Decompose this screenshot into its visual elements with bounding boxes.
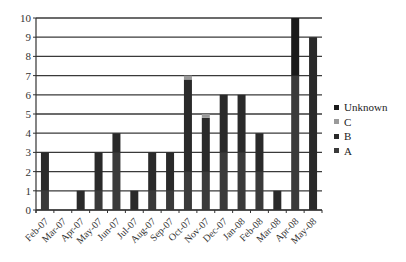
bar-segment-b <box>77 191 85 210</box>
axes <box>36 18 322 213</box>
bar-segment-b <box>202 118 210 172</box>
legend-item-c: C <box>334 115 387 130</box>
y-tick-label: 9 <box>26 31 32 43</box>
legend-swatch-icon <box>334 148 339 153</box>
bar-segment-b <box>130 191 138 210</box>
y-axis-labels: 012345678910 <box>20 12 32 216</box>
bar-segment-b <box>255 133 263 171</box>
bar-segment-b <box>184 79 192 171</box>
bar-segment-a <box>220 152 228 210</box>
legend-item-a: A <box>334 144 387 159</box>
bar-segment-a <box>112 152 120 210</box>
y-tick-label: 8 <box>26 50 32 62</box>
legend-label: Unknown <box>344 101 387 113</box>
legend-item-unknown: Unknown <box>334 100 387 115</box>
bar-segment-b <box>95 152 103 190</box>
bar-segment-b <box>112 133 120 152</box>
bar-segment-b <box>166 152 174 190</box>
bar-segment-c <box>202 114 210 118</box>
legend: Unknown C B A <box>334 100 387 158</box>
bar-segment-a <box>184 172 192 210</box>
bar-segment-b <box>148 152 156 190</box>
bar-segment-c <box>184 76 192 80</box>
legend-label: C <box>344 116 351 128</box>
y-tick-label: 10 <box>20 12 32 24</box>
y-tick-label: 0 <box>26 204 32 216</box>
x-axis-labels: Feb-07Mar-07Apr-07May-07Jun-07Jul-07Aug-… <box>23 216 319 246</box>
gridlines <box>33 18 322 210</box>
bar-segment-b <box>238 95 246 153</box>
bar-segment-a <box>255 172 263 210</box>
y-tick-label: 2 <box>26 166 32 178</box>
bar-segment-a <box>202 172 210 210</box>
legend-swatch-icon <box>334 134 339 139</box>
bar-segment-unknown <box>291 18 299 76</box>
bar-segment-a <box>291 76 299 210</box>
bar-segment-a <box>148 191 156 210</box>
legend-item-b: B <box>334 129 387 144</box>
legend-label: A <box>344 145 352 157</box>
legend-swatch-icon <box>334 105 339 110</box>
bar-segment-a <box>238 152 246 210</box>
bar-segment-b <box>309 37 317 210</box>
legend-swatch-icon <box>334 119 339 124</box>
y-tick-label: 3 <box>26 146 32 158</box>
bar-segment-a <box>166 191 174 210</box>
legend-label: B <box>344 130 351 142</box>
y-tick-label: 4 <box>26 127 32 139</box>
bar-segment-b <box>41 152 49 190</box>
y-tick-label: 1 <box>26 185 32 197</box>
bar-segment-a <box>41 191 49 210</box>
y-tick-label: 6 <box>26 89 32 101</box>
y-tick-label: 5 <box>26 108 32 120</box>
bar-segment-a <box>95 191 103 210</box>
y-tick-label: 7 <box>26 70 32 82</box>
bar-segment-b <box>273 191 281 210</box>
bar-segment-b <box>220 95 228 153</box>
